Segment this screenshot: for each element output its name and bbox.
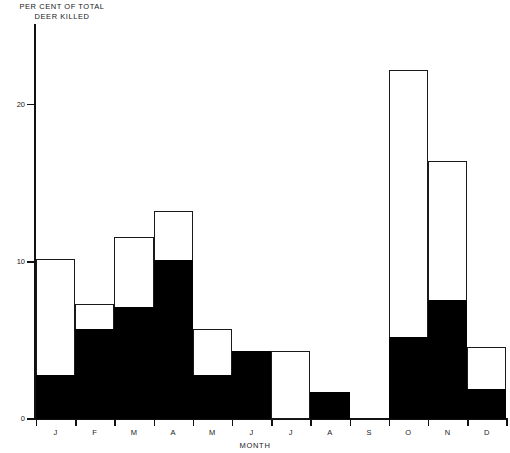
y-axis-tick-label: 20 <box>3 100 25 109</box>
x-axis-tick <box>193 419 194 426</box>
bar-group[interactable] <box>467 0 506 453</box>
bar-group[interactable] <box>232 0 271 453</box>
bar-group[interactable] <box>36 0 75 453</box>
x-axis-tick <box>114 419 115 426</box>
bar-fill-solid[interactable] <box>154 260 193 419</box>
x-axis-month-label: O <box>393 428 423 437</box>
y-axis-tick <box>27 104 36 106</box>
bar-group[interactable] <box>310 0 349 453</box>
bar-fill-solid[interactable] <box>310 392 349 419</box>
bar-fill-solid[interactable] <box>428 300 467 419</box>
x-axis-tick <box>467 419 468 426</box>
x-axis-month-label: M <box>119 428 149 437</box>
x-axis-month-label: S <box>354 428 384 437</box>
bar-group[interactable] <box>154 0 193 453</box>
x-axis-tick <box>350 419 351 426</box>
x-axis-month-label: J <box>237 428 267 437</box>
bar-group[interactable] <box>271 0 310 453</box>
x-axis-tick <box>232 419 233 426</box>
x-axis-month-label: M <box>197 428 227 437</box>
bar-fill-solid[interactable] <box>467 389 506 419</box>
x-axis-tick <box>154 419 155 426</box>
x-axis-tick <box>310 419 311 426</box>
x-axis-month-label: J <box>276 428 306 437</box>
plot-area <box>0 0 510 453</box>
x-axis-tick <box>506 419 507 426</box>
x-axis-month-label: F <box>80 428 110 437</box>
x-axis-month-label: N <box>433 428 463 437</box>
bar-fill-solid[interactable] <box>232 351 271 419</box>
y-axis-tick-label: 10 <box>3 257 25 266</box>
x-axis-tick <box>428 419 429 426</box>
bar-fill-solid[interactable] <box>389 337 428 419</box>
bar-group[interactable] <box>350 0 389 453</box>
bar-fill-solid[interactable] <box>114 307 153 419</box>
x-axis-month-label: A <box>158 428 188 437</box>
x-axis-tick <box>389 419 390 426</box>
x-axis-tick <box>36 419 37 426</box>
y-axis-tick <box>27 418 36 420</box>
bar-group[interactable] <box>193 0 232 453</box>
bar-group[interactable] <box>75 0 114 453</box>
bar-group[interactable] <box>428 0 467 453</box>
x-axis-month-label: D <box>472 428 502 437</box>
bar-outline-total[interactable] <box>271 351 310 419</box>
x-axis-title: MONTH <box>0 441 510 450</box>
bar-fill-solid[interactable] <box>75 329 114 419</box>
y-axis-tick-label: 0 <box>3 414 25 423</box>
bar-fill-solid[interactable] <box>193 375 232 419</box>
x-axis-month-label: J <box>41 428 71 437</box>
bar-group[interactable] <box>389 0 428 453</box>
x-axis-tick <box>75 419 76 426</box>
x-axis-tick <box>271 419 272 426</box>
bar-group[interactable] <box>114 0 153 453</box>
bar-fill-solid[interactable] <box>36 375 75 419</box>
deer-kill-bar-chart: PER CENT OF TOTAL DEER KILLED MONTH 0102… <box>0 0 510 453</box>
x-axis-month-label: A <box>315 428 345 437</box>
y-axis-tick <box>27 261 36 263</box>
